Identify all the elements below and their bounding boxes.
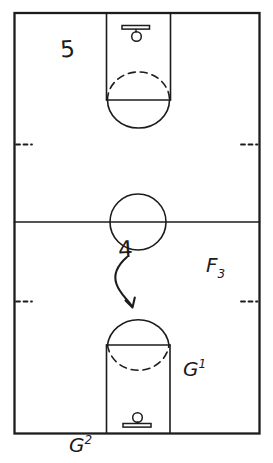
bottom-hoop-icon — [133, 413, 143, 423]
movement-arrow — [115, 257, 135, 308]
bottom-free-throw-circle-dashed-half — [108, 345, 170, 370]
player-4-label: 4 — [117, 236, 133, 263]
player-5-label: 5 — [59, 35, 75, 62]
top-key — [107, 14, 171, 128]
bottom-backboard — [123, 424, 151, 428]
player-g2-superscript: 2 — [85, 433, 93, 447]
top-backboard — [122, 26, 150, 30]
top-free-throw-circle-dashed-half — [108, 72, 170, 100]
bottom-key — [107, 320, 171, 433]
movement-arrow-shaft — [115, 257, 131, 306]
bottom-free-throw-circle-solid-half — [108, 320, 170, 345]
player-g1-superscript: 1 — [199, 357, 207, 371]
court-canvas: 5 4 F3 G1 G2 — [0, 0, 273, 463]
player-g1-label: G1 — [183, 357, 206, 381]
player-f3-subscript: 3 — [218, 267, 226, 281]
player-f3-letter: F — [206, 253, 218, 277]
player-g2-letter: G — [69, 433, 85, 457]
top-hoop-icon — [132, 32, 142, 42]
top-basket — [122, 26, 150, 42]
player-f3-label: F3 — [206, 253, 225, 281]
basketball-play-diagram: 5 4 F3 G1 G2 — [0, 0, 273, 463]
bottom-basket — [123, 413, 151, 427]
top-free-throw-circle-solid-half — [108, 100, 170, 128]
player-g1-letter: G — [183, 357, 199, 381]
player-g2-label: G2 — [69, 433, 92, 457]
